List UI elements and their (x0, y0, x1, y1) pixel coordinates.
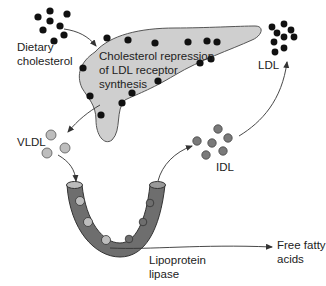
dietary-line-2: cholesterol (17, 54, 73, 68)
ffa-line-1: Free fatty (277, 238, 326, 252)
vldl-label: VLDL (17, 135, 46, 149)
lipase-line-1: Lipoprotein (149, 253, 206, 267)
dietary-line-1: Dietary (17, 40, 73, 54)
liver-line-2: of LDL receptor (99, 63, 214, 77)
vldl-dots (42, 130, 70, 158)
ldl-dots (269, 21, 298, 56)
liver-label: Cholesterol repression of LDL receptor s… (99, 49, 214, 91)
liver-line-3: synthesis (99, 77, 214, 91)
ffa-line-2: acids (277, 252, 326, 266)
dietary-cholesterol-label: Dietary cholesterol (17, 40, 73, 68)
idl-dots (193, 125, 232, 159)
lipoprotein-lipase-label: Lipoprotein lipase (149, 253, 206, 281)
lipase-line-2: lipase (149, 267, 206, 281)
arrow-vessel-to-idl (158, 146, 192, 181)
free-fatty-acids-label: Free fatty acids (277, 238, 326, 266)
liver-line-1: Cholesterol repression (99, 49, 214, 63)
ldl-label: LDL (258, 58, 279, 72)
blood-vessel (67, 182, 166, 258)
arrow-idl-to-ldl (239, 62, 287, 136)
idl-label: IDL (216, 160, 234, 174)
arrow-vldl-to-vessel (58, 155, 76, 181)
